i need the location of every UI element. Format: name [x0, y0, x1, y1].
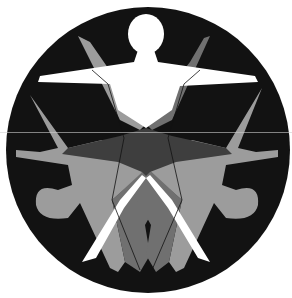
scan-line [0, 132, 292, 133]
